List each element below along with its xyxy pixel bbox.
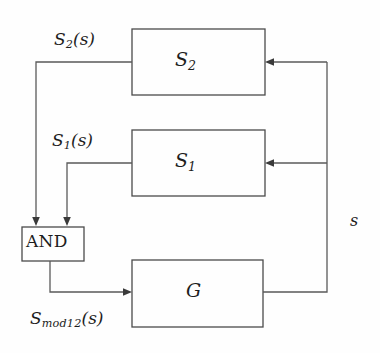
- block-s2-label: S2: [175, 50, 196, 72]
- block-s2-letter: S: [175, 48, 188, 70]
- signal-smod12-letter: S: [30, 308, 42, 328]
- block-s2-subscript: 2: [188, 58, 196, 73]
- signal-label-s1: S1(s): [52, 132, 93, 152]
- block-diagram: S2 S1 G AND S2(s) S1(s) Smod12(s) s: [0, 0, 380, 353]
- arrowhead-feedback-into-s1: [265, 159, 274, 167]
- block-g-label: G: [186, 281, 201, 300]
- wire-g-feedback-bus: [263, 62, 327, 292]
- wire-s1-to-and: [67, 163, 132, 219]
- block-s1-label: S1: [175, 151, 196, 173]
- block-s2-rect: [132, 29, 265, 95]
- signal-s2-arg: (s): [73, 29, 95, 49]
- block-s1-subscript: 1: [188, 159, 196, 174]
- arrowhead-and-into-g: [123, 288, 132, 296]
- wire-and-to-g: [50, 261, 125, 292]
- signal-s1-arg: (s): [71, 130, 93, 150]
- signal-s1-letter: S: [52, 130, 64, 150]
- signal-label-smod12: Smod12(s): [30, 310, 104, 330]
- signal-smod12-subscript: mod12: [42, 317, 82, 330]
- block-s1-rect: [132, 130, 265, 196]
- block-and-label: AND: [26, 233, 68, 250]
- arrowhead-feedback-into-s2: [265, 58, 274, 66]
- arrowhead-s1-into-and: [63, 217, 71, 226]
- signal-smod12-arg: (s): [82, 308, 104, 328]
- arrowhead-s2-into-and: [32, 217, 40, 226]
- signal-s2-letter: S: [54, 29, 66, 49]
- signal-s1-subscript: 1: [64, 139, 71, 152]
- block-s1-letter: S: [175, 149, 188, 171]
- signal-s2-subscript: 2: [66, 38, 73, 51]
- signal-label-s: s: [350, 213, 358, 229]
- signal-label-s2: S2(s): [54, 31, 95, 51]
